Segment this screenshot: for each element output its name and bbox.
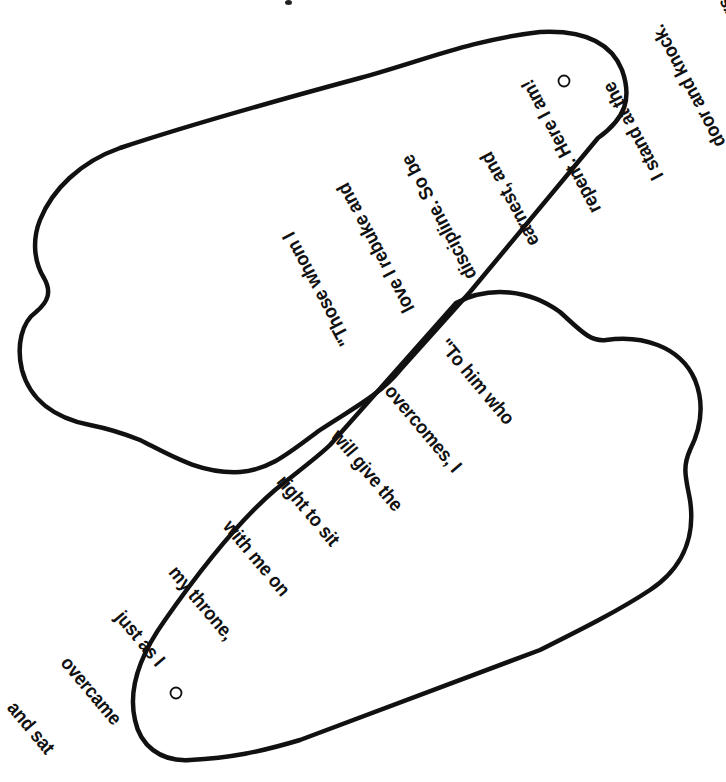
verse-line: I stand at the	[578, 43, 668, 185]
ink-speck	[285, 0, 292, 5]
verse-line: down with	[0, 742, 35, 782]
verse-line: just as I	[110, 606, 197, 703]
verse-line: right to sit	[272, 470, 359, 567]
verse-line: door and knock.	[640, 9, 726, 151]
verse-line: love I rebuke and	[329, 175, 419, 317]
verse-line: my throne,	[164, 561, 251, 658]
verse-line: discipline. So be	[391, 142, 481, 284]
verse-line: "Those whom I	[267, 208, 357, 350]
verse-line: overcomes, I	[380, 380, 467, 477]
verse-line: with me on	[218, 515, 305, 612]
verse-line: repent. Here I am!	[516, 76, 606, 218]
verse-line: earnest, and	[454, 109, 544, 251]
verse-line: will give the	[326, 425, 413, 522]
verse-line: and sat	[2, 697, 89, 782]
verse-line: "To him who	[434, 334, 521, 431]
verse-line: overcame	[56, 651, 143, 748]
